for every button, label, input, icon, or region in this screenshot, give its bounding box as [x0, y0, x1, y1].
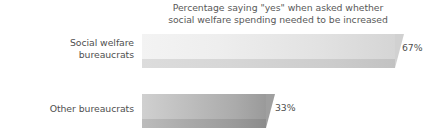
- bar-1: [142, 94, 266, 128]
- bar-0-body: [142, 34, 395, 68]
- category-label-0: Social welfare bureaucrats: [0, 37, 134, 62]
- bar-row: Social welfare bureaucrats 67%: [0, 34, 432, 76]
- chart-title: Percentage saying "yes" when asked wheth…: [130, 2, 426, 26]
- bar-0: [142, 34, 395, 68]
- category-label-1-line-1: Other bureaucrats: [0, 103, 134, 115]
- bar-1-body: [142, 94, 266, 128]
- bar-1-bevel-cap: [266, 94, 275, 128]
- category-label-1: Other bureaucrats: [0, 103, 134, 115]
- bar-row: Other bureaucrats 33%: [0, 94, 432, 136]
- chart-title-line-1: Percentage saying "yes" when asked wheth…: [130, 2, 426, 14]
- value-label-0: 67%: [402, 42, 423, 54]
- bar-1-top-face: [142, 94, 266, 119]
- plot-area: Social welfare bureaucrats 67% Other bur…: [0, 30, 432, 140]
- category-label-0-line-1: Social welfare: [0, 37, 134, 49]
- category-label-0-line-2: bureaucrats: [0, 49, 134, 61]
- bar-1-front-face: [142, 119, 266, 128]
- bar-0-front-face: [142, 59, 395, 68]
- bar-0-top-face: [142, 34, 395, 59]
- bar-chart: Percentage saying "yes" when asked wheth…: [0, 0, 432, 140]
- chart-title-line-2: social welfare spending needed to be inc…: [130, 14, 426, 26]
- value-label-1: 33%: [275, 102, 296, 114]
